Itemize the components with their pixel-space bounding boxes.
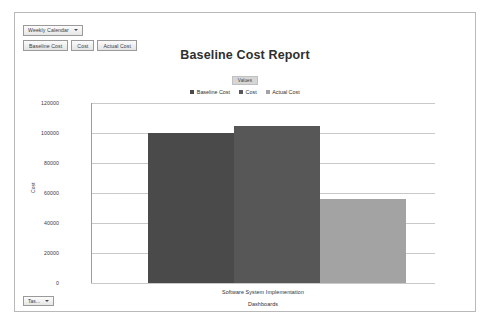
chevron-down-icon bbox=[45, 300, 49, 302]
screenshot-root: Weekly Calendar Baseline Cost Cost Actua… bbox=[0, 0, 490, 325]
weekly-calendar-dropdown-label: Weekly Calendar bbox=[28, 27, 69, 33]
y-tick-label: 80000 bbox=[15, 160, 59, 166]
bar-actual-cost[interactable] bbox=[320, 199, 406, 283]
chevron-down-icon bbox=[74, 29, 78, 31]
y-tick-label: 100000 bbox=[15, 130, 59, 136]
bar-baseline-cost[interactable] bbox=[148, 133, 234, 283]
y-tick-label: 60000 bbox=[15, 190, 59, 196]
chart-title: Baseline Cost Report bbox=[15, 48, 475, 62]
weekly-calendar-dropdown[interactable]: Weekly Calendar bbox=[23, 25, 83, 36]
task-dropdown[interactable]: Tas... bbox=[23, 296, 54, 306]
bar-series-container bbox=[92, 103, 435, 283]
gridline bbox=[91, 283, 435, 284]
y-tick-label: 20000 bbox=[15, 250, 59, 256]
x-axis-title: Dashboards bbox=[91, 301, 435, 307]
report-toolbar: Weekly Calendar Baseline Cost Cost Actua… bbox=[23, 18, 463, 51]
x-category-label: Software System Implementation bbox=[91, 289, 435, 295]
y-tick-label: 120000 bbox=[15, 100, 59, 106]
chart-legend: Values Baseline Cost Cost Actual Cost bbox=[15, 68, 475, 95]
chart-plot-area: Cost 120000 100000 80000 60000 40000 200… bbox=[15, 93, 475, 311]
legend-heading: Values bbox=[232, 76, 258, 85]
y-tick-label: 40000 bbox=[15, 220, 59, 226]
y-tick-label: 0 bbox=[15, 280, 59, 286]
bar-cost[interactable] bbox=[234, 126, 320, 284]
task-dropdown-label: Tas... bbox=[28, 298, 40, 304]
report-panel: Weekly Calendar Baseline Cost Cost Actua… bbox=[14, 12, 476, 312]
